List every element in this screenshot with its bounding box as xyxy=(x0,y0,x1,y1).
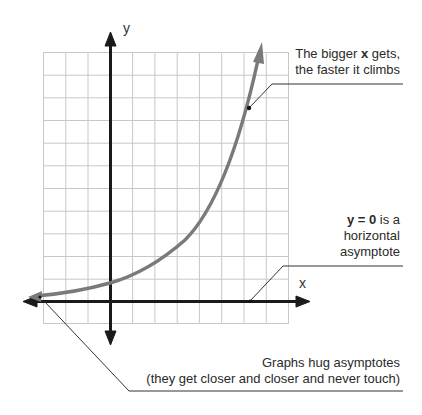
x-axis-right-arrow-icon xyxy=(296,296,310,307)
y-axis-up-arrow-icon xyxy=(105,32,116,46)
annotation-middle-line2: horizontal xyxy=(200,228,400,244)
asymptote-point-dot xyxy=(248,299,251,302)
annotation-middle-line1: y = 0 is a xyxy=(200,212,400,228)
annotation-top-line1: The bigger x gets, xyxy=(200,46,400,62)
x-axis-label: x xyxy=(299,275,306,291)
tail-point-dot xyxy=(38,295,41,298)
annotation-bottom: Graphs hug asymptotes (they get closer a… xyxy=(80,355,400,387)
annotation-middle-line3: asymptote xyxy=(200,244,400,260)
y-axis-label: y xyxy=(123,20,130,36)
annotation-top-line2: the faster it climbs xyxy=(200,62,400,78)
y-axis-down-arrow-icon xyxy=(105,331,116,345)
leader-top xyxy=(249,84,403,108)
annotation-top: The bigger x gets, the faster it climbs xyxy=(200,46,400,78)
leader-middle xyxy=(250,266,403,301)
annotation-bottom-line1: Graphs hug asymptotes xyxy=(80,355,400,371)
annotation-bottom-line2: (they get closer and closer and never to… xyxy=(80,371,400,387)
curve-point-dot xyxy=(247,106,251,110)
annotation-middle: y = 0 is a horizontal asymptote xyxy=(200,212,400,260)
exponential-curve xyxy=(36,60,258,296)
